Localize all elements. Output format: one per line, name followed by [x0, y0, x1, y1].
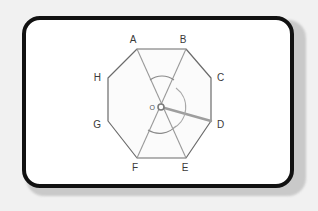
vertex-label-b: B — [180, 34, 187, 45]
center-point-marker — [158, 104, 164, 110]
vertex-label-f: F — [132, 162, 138, 173]
center-label-o: O — [150, 104, 156, 111]
vertex-label-a: A — [130, 34, 137, 45]
vertex-label-g: G — [93, 119, 101, 130]
vertex-label-d: D — [217, 119, 224, 130]
geometry-canvas: A B C D E F G H O — [0, 0, 318, 211]
vertex-label-h: H — [94, 72, 101, 83]
octagon-shape — [108, 49, 211, 158]
vertex-label-e: E — [182, 162, 189, 173]
diagram-stage: A B C D E F G H O — [0, 0, 318, 211]
vertex-label-c: C — [217, 72, 224, 83]
